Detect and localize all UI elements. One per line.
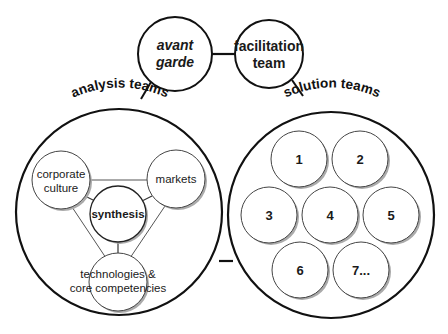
team-number: 1: [295, 152, 302, 167]
analysis-teams-group: corporate culture markets synthesis tech…: [16, 109, 222, 315]
team-number: 7...: [352, 263, 370, 278]
team-structure-diagram: avant garde facilitation team analysis t…: [0, 0, 448, 334]
technologies-label-2: core competencies: [70, 282, 167, 294]
avant-garde-label-2: garde: [155, 54, 194, 70]
solution-teams-group: 1 2 3 4 5 6 7...: [228, 112, 434, 318]
facilitation-team-node: facilitation team: [234, 20, 304, 88]
team-number: 5: [387, 208, 394, 223]
team-number: 3: [265, 208, 272, 223]
facilitation-label-1: facilitation: [234, 38, 304, 54]
facilitation-label-2: team: [253, 55, 286, 71]
technologies-label-1: technologies &: [80, 268, 156, 280]
corporate-culture-label-1: corporate: [37, 168, 86, 180]
avant-garde-label-1: avant: [157, 37, 195, 53]
corporate-culture-label-2: culture: [44, 182, 79, 194]
team-number: 4: [326, 208, 334, 223]
solution-teams-label: solution teams: [281, 75, 383, 100]
team-number: 6: [296, 263, 303, 278]
markets-label: markets: [156, 173, 197, 185]
synthesis-label: synthesis: [91, 208, 144, 220]
team-number: 2: [356, 152, 363, 167]
